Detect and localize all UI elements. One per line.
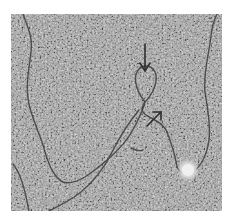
micrograph-svg [11,14,222,211]
micrograph-image [11,14,222,211]
bright-particle [179,161,197,179]
grain-texture [11,14,222,211]
